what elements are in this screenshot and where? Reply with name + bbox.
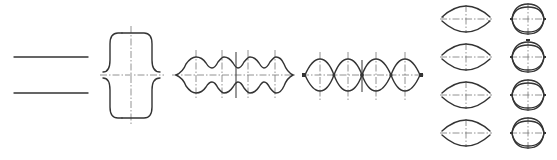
small-circle-row-4 — [510, 117, 546, 149]
node — [360, 73, 364, 77]
parallel-lines-figure — [14, 57, 88, 93]
small-lens-row-2 — [440, 43, 492, 71]
node — [389, 73, 392, 76]
end-node — [302, 73, 306, 77]
small-lens-column — [440, 5, 492, 147]
wavy-lower-edge — [176, 75, 293, 93]
node — [332, 73, 335, 76]
bracket-figure — [100, 26, 164, 124]
small-lens-row-1 — [440, 5, 492, 33]
end-node — [419, 73, 423, 77]
wavy-beam-figure — [172, 50, 297, 100]
lens-chain-figure — [302, 52, 424, 100]
small-lens-row-4 — [440, 119, 492, 147]
small-lens-row-3 — [440, 81, 492, 109]
small-circle-row-1 — [510, 3, 546, 35]
mode-shape-diagram — [0, 0, 557, 160]
small-circle-row-2 — [510, 39, 546, 73]
small-circle-column — [510, 3, 546, 149]
wavy-upper-edge — [176, 57, 293, 75]
left-brace — [103, 33, 122, 118]
right-brace — [122, 33, 160, 118]
small-circle-row-3 — [510, 79, 546, 111]
